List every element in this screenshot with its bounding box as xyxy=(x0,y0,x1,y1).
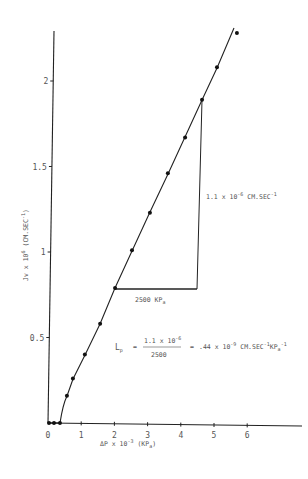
data-point xyxy=(166,171,170,175)
svg-text:=: = xyxy=(133,343,137,351)
permeability-formula: Lp = 1.1 x 10-6 2500 = .44 x 10-9 CM.SEC… xyxy=(115,335,287,359)
y-axis-label: Jv x 106(CM.SEC-1) xyxy=(20,209,30,281)
triangle-vertical-label: 1.1 x 10-6 CM.SEC-1 xyxy=(206,191,277,201)
data-point xyxy=(183,135,187,139)
triangle-horizontal-label: 2500 KPa xyxy=(135,296,165,305)
y-tick-label: 0.5 xyxy=(30,334,45,343)
data-point xyxy=(83,353,87,357)
data-point xyxy=(52,421,56,425)
data-point xyxy=(148,211,152,215)
axes xyxy=(48,31,302,426)
triangle-vertical xyxy=(197,100,202,289)
y-tick-label: 1.5 xyxy=(32,163,47,172)
data-point xyxy=(47,421,51,425)
x-tick-label: 6 xyxy=(245,431,250,440)
data-point xyxy=(65,394,69,398)
fitted-curve xyxy=(60,28,234,423)
x-tick-label: 4 xyxy=(178,431,183,440)
chart: 0123456 0.511.52 Jv x 106(CM.SEC-1) ΔP x… xyxy=(0,0,308,479)
x-tick-label: 2 xyxy=(112,431,117,440)
data-point xyxy=(215,65,219,69)
y-tick-label: 1 xyxy=(41,248,46,257)
x-tick-label: 1 xyxy=(79,431,84,440)
svg-text:=: = xyxy=(190,343,194,351)
y-tick-label: 2 xyxy=(43,77,48,86)
svg-text:Lp: Lp xyxy=(115,343,123,354)
data-point xyxy=(58,421,62,425)
svg-text:.44 x 10-9 CM.SEC-1KPa-1: .44 x 10-9 CM.SEC-1KPa-1 xyxy=(199,341,287,352)
x-tick-label: 3 xyxy=(145,431,150,440)
x-axis-label: ΔP x 10-3(KPa) xyxy=(100,438,156,449)
svg-text:1.1 x 10-6: 1.1 x 10-6 xyxy=(144,335,181,345)
data-point xyxy=(130,248,134,252)
data-point xyxy=(113,286,117,290)
svg-text:2500: 2500 xyxy=(151,351,167,359)
x-ticks: 0123456 xyxy=(46,421,250,440)
data-point xyxy=(71,377,75,381)
data-point xyxy=(98,322,102,326)
x-axis xyxy=(48,423,302,426)
x-tick-label: 0 xyxy=(46,431,51,440)
data-point xyxy=(235,31,239,35)
x-tick-label: 5 xyxy=(212,431,217,440)
y-axis xyxy=(48,31,54,423)
data-point xyxy=(200,98,204,102)
